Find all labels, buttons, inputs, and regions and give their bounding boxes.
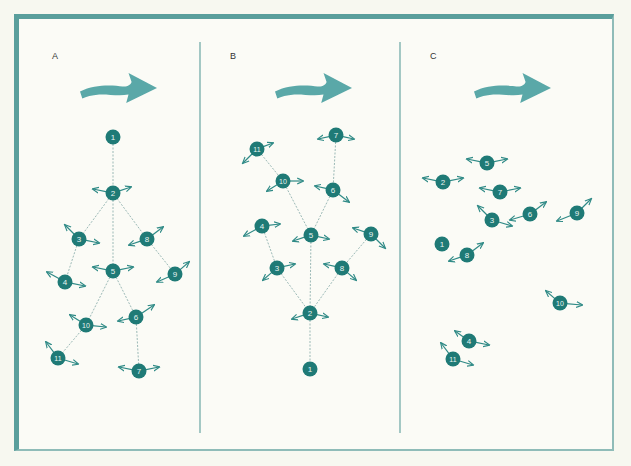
- tree-edge: [136, 317, 139, 371]
- node-label: 8: [145, 235, 150, 244]
- node-label: 8: [465, 251, 470, 260]
- node-label: 4: [63, 278, 68, 287]
- tree-edge: [310, 235, 311, 313]
- node-7: 7: [318, 128, 354, 143]
- velocity-arrow-icon: [535, 202, 546, 210]
- velocity-arrow-icon: [267, 184, 278, 191]
- node-label: 1: [308, 365, 313, 374]
- node-label: 8: [340, 264, 345, 273]
- node-3: 3: [65, 225, 99, 247]
- node-1: 1: [106, 130, 121, 145]
- velocity-arrow-icon: [93, 189, 107, 192]
- node-11: 11: [46, 342, 78, 366]
- node-label: 4: [467, 337, 472, 346]
- node-label: 6: [134, 313, 139, 322]
- node-label: 11: [253, 146, 260, 153]
- node-4: 4: [47, 272, 85, 290]
- tree-edge: [113, 271, 136, 317]
- tree-edge: [86, 271, 113, 325]
- node-label: 2: [441, 178, 446, 187]
- velocity-arrow-icon: [342, 136, 354, 139]
- node-8: 8: [324, 261, 356, 281]
- velocity-arrow-icon: [480, 188, 494, 191]
- velocity-arrow-icon: [70, 315, 81, 322]
- node-10: 10: [70, 315, 106, 333]
- node-9: 9: [557, 199, 591, 221]
- node-9: 9: [157, 262, 189, 282]
- node-label: 11: [54, 355, 61, 362]
- node-2: 2: [93, 186, 131, 201]
- tree-edge: [79, 193, 113, 239]
- velocity-arrow-icon: [493, 159, 507, 162]
- velocity-arrow-icon: [157, 276, 170, 282]
- node-label: 5: [309, 231, 314, 240]
- velocity-arrow-icon: [141, 305, 154, 314]
- tree-edge: [283, 181, 311, 235]
- velocity-arrow-icon: [449, 178, 463, 181]
- node-label: 6: [528, 210, 533, 219]
- node-10: 10: [267, 174, 303, 192]
- velocity-arrow-icon: [455, 331, 464, 338]
- velocity-arrow-icon: [316, 314, 328, 317]
- node-5: 5: [293, 228, 329, 243]
- velocity-arrow-icon: [64, 360, 78, 364]
- velocity-arrow-icon: [581, 199, 591, 209]
- node-label: 6: [331, 186, 336, 195]
- velocity-arrow-icon: [318, 136, 330, 139]
- velocity-arrow-icon: [293, 237, 305, 241]
- node-7: 7: [480, 185, 520, 200]
- velocity-arrow-icon: [244, 229, 257, 236]
- velocity-arrow-icon: [47, 272, 60, 279]
- node-3: 3: [263, 261, 295, 281]
- velocity-arrow-icon: [129, 241, 141, 245]
- node-label: 2: [111, 189, 116, 198]
- node-label: 9: [173, 270, 178, 279]
- velocity-arrow-icon: [353, 228, 365, 232]
- velocity-arrow-icon: [119, 367, 133, 370]
- node-label: 3: [77, 235, 82, 244]
- flow-arrow-icon: [80, 73, 157, 103]
- tree-edge: [310, 268, 342, 313]
- velocity-arrow-icon: [93, 267, 107, 270]
- velocity-arrow-icon: [152, 227, 163, 235]
- velocity-arrow-icon: [92, 326, 106, 327]
- node-label: 10: [279, 178, 287, 185]
- velocity-arrow-icon: [180, 262, 189, 270]
- velocity-arrow-icon: [498, 222, 512, 226]
- tree-edge: [311, 190, 333, 235]
- node-6: 6: [510, 202, 546, 222]
- node-8: 8: [129, 227, 163, 247]
- flow-arrow-icon: [474, 73, 551, 103]
- velocity-arrow-icon: [459, 361, 473, 365]
- velocity-arrow-icon: [324, 264, 336, 267]
- velocity-arrow-icon: [506, 188, 520, 191]
- flow-arrow-icon: [275, 73, 352, 103]
- node-5: 5: [93, 264, 133, 279]
- node-9: 9: [353, 227, 385, 249]
- velocity-arrow-icon: [566, 304, 582, 305]
- velocity-arrow-icon: [449, 257, 461, 261]
- velocity-arrow-icon: [65, 225, 75, 235]
- node-label: 10: [82, 322, 90, 329]
- node-label: 5: [111, 267, 116, 276]
- tree-edge: [277, 268, 310, 313]
- node-6: 6: [315, 183, 349, 203]
- node-label: 9: [575, 209, 580, 218]
- node-4: 4: [244, 219, 280, 237]
- velocity-arrow-icon: [315, 186, 327, 189]
- velocity-arrow-icon: [557, 215, 571, 221]
- velocity-arrow-icon: [243, 153, 253, 163]
- velocity-arrow-icon: [338, 194, 349, 202]
- diagram-canvas: 123854910611771110645938215273691810411: [0, 0, 631, 466]
- node-label: 1: [440, 240, 445, 249]
- velocity-arrow-icon: [119, 267, 133, 270]
- node-label: 3: [490, 216, 495, 225]
- velocity-arrow-icon: [263, 272, 272, 280]
- velocity-arrow-icon: [347, 272, 356, 280]
- node-4: 4: [455, 331, 489, 349]
- node-label: 11: [449, 356, 456, 363]
- velocity-arrow-icon: [546, 291, 555, 299]
- node-label: 7: [498, 188, 503, 197]
- velocity-arrow-icon: [467, 159, 481, 162]
- node-label: 3: [275, 264, 280, 273]
